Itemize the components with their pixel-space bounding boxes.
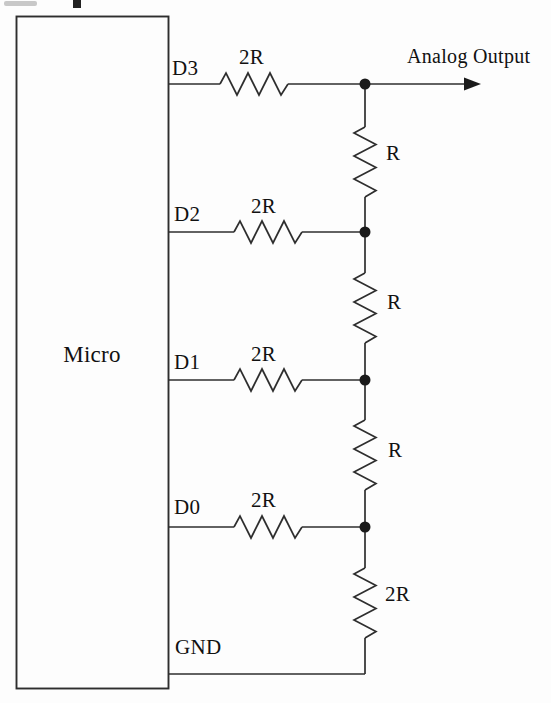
arrowhead-icon xyxy=(464,78,481,91)
resistor-2r-d3 xyxy=(220,73,288,95)
node-dot-d0 xyxy=(360,522,371,533)
resistor-2r-termination xyxy=(354,568,376,638)
resistor-r-1 xyxy=(354,127,376,197)
pin-label-d0: D0 xyxy=(174,496,200,519)
resistor-2r-d0 xyxy=(234,516,302,538)
micro-label: Micro xyxy=(16,342,168,367)
resistor-label-2r-d2: 2R xyxy=(251,195,276,218)
node-dot-d3 xyxy=(360,79,371,90)
analog-output-label: Analog Output xyxy=(407,45,530,67)
resistor-label-2r-d1: 2R xyxy=(251,343,276,366)
node-dot-d1 xyxy=(360,375,371,386)
resistor-label-r-3: R xyxy=(388,439,402,462)
pin-label-d1: D1 xyxy=(174,351,200,374)
resistor-2r-d1 xyxy=(234,369,302,391)
resistor-label-r-1: R xyxy=(386,142,400,165)
pin-label-d2: D2 xyxy=(174,203,200,226)
node-dot-d2 xyxy=(360,227,371,238)
resistor-r-2 xyxy=(354,273,376,343)
resistor-r-3 xyxy=(354,420,376,490)
resistor-label-2r-d3: 2R xyxy=(239,46,264,69)
resistor-label-2r-termination: 2R xyxy=(385,583,410,606)
gnd-label: GND xyxy=(175,636,221,659)
resistor-2r-d2 xyxy=(234,221,302,243)
resistor-label-r-2: R xyxy=(387,291,401,314)
pin-label-d3: D3 xyxy=(172,57,198,80)
resistor-label-2r-d0: 2R xyxy=(251,489,276,512)
circuit-diagram: Micro D3 2R Analog Output D2 2R D1 2R D0… xyxy=(0,0,551,703)
